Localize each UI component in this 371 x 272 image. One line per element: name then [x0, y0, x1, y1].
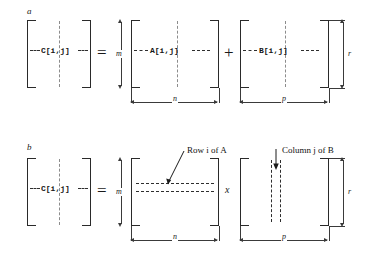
dimension-p-a-arrow-right	[324, 100, 328, 104]
row-i-of-a-lower-edge	[136, 191, 214, 192]
column-j-of-b-annotation: Column j of B	[282, 146, 334, 155]
equals-sign-b: =	[97, 182, 107, 199]
matrix-b-label: B[i,j]	[259, 47, 288, 55]
dimension-r-a-label: r	[347, 50, 352, 58]
dimension-p-b-arrow-left	[239, 238, 243, 242]
matrix-b-bracket-left	[240, 20, 249, 88]
dimension-n-b-ext-right	[219, 226, 220, 241]
dimension-m-b-arrow-bottom	[118, 223, 122, 227]
dimension-r-b-arrow-top	[340, 157, 344, 161]
matrix-b-row-guide-right	[301, 50, 319, 51]
dimension-n-a-label: n	[172, 95, 178, 103]
matrix-a-bracket-left	[131, 20, 140, 88]
matrix-c-b-bracket-left	[27, 158, 36, 226]
matrix-c-a-row-guide-left	[30, 50, 40, 51]
matrix-a-row-guide-right	[192, 50, 210, 51]
figure-canvas: a C[i,j] = m A[i,j] + B[i,j]	[0, 0, 371, 272]
dimension-r-a-arrow-bottom	[340, 85, 344, 89]
matrix-a-bracket-right	[210, 20, 219, 88]
matrix-a-b-bracket-left	[131, 158, 140, 226]
matrix-c-b-row-guide-right	[78, 188, 88, 189]
equals-sign-a: =	[97, 44, 107, 61]
plus-sign-a: +	[224, 44, 234, 61]
matrix-c-a-bracket-right	[82, 20, 91, 88]
dimension-p-b-ext-right	[329, 226, 330, 241]
matrix-c-b-row-guide-left	[30, 188, 40, 189]
panel-b-letter: b	[27, 143, 32, 152]
panel-b: b C[i,j] = m Row i of A x	[0, 136, 371, 272]
matrix-a-row-guide-left	[134, 50, 148, 51]
dimension-n-b-arrow-left	[130, 238, 134, 242]
dimension-p-a-arrow-left	[239, 100, 243, 104]
dimension-n-b-label: n	[172, 233, 178, 241]
multiplication-sign-b: x	[225, 185, 229, 195]
dimension-n-a-arrow-right	[214, 100, 218, 104]
row-i-of-a-leader-line	[160, 150, 200, 186]
dimension-p-b-label: p	[281, 233, 287, 241]
dimension-m-a-arrow-top	[118, 19, 122, 23]
row-i-of-a-annotation: Row i of A	[187, 146, 227, 155]
dimension-p-a-label: p	[281, 95, 287, 103]
dimension-m-b-label: m	[115, 188, 123, 196]
matrix-b-bracket-right	[320, 20, 329, 88]
dimension-m-b-arrow-top	[118, 157, 122, 161]
panel-a-letter: a	[27, 7, 32, 16]
dimension-n-a-ext-right	[219, 88, 220, 103]
matrix-c-a-row-guide-right	[78, 50, 88, 51]
matrix-c-a-label: C[i,j]	[41, 47, 70, 55]
matrix-b-b-bracket-left	[240, 158, 249, 226]
dimension-r-b-arrow-bottom	[340, 223, 344, 227]
dimension-m-a-arrow-bottom	[118, 85, 122, 89]
panel-a: a C[i,j] = m A[i,j] + B[i,j]	[0, 0, 371, 128]
dimension-r-b-label: r	[347, 188, 352, 196]
dimension-r-a-line	[343, 22, 344, 86]
matrix-c-b-label: C[i,j]	[41, 185, 70, 193]
matrix-b-row-guide-left	[243, 50, 257, 51]
dimension-r-a-arrow-top	[340, 19, 344, 23]
dimension-r-b-line	[343, 160, 344, 224]
matrix-c-a-bracket-left	[27, 20, 36, 88]
dimension-m-a-label: m	[115, 50, 123, 58]
dimension-n-a-arrow-left	[130, 100, 134, 104]
dimension-n-b-arrow-right	[214, 238, 218, 242]
dimension-p-b-arrow-right	[324, 238, 328, 242]
matrix-b-b-bracket-right	[320, 158, 329, 226]
dimension-p-a-ext-right	[329, 88, 330, 103]
matrix-a-label: A[i,j]	[150, 47, 179, 55]
matrix-a-b-bracket-right	[210, 158, 219, 226]
matrix-c-b-bracket-right	[82, 158, 91, 226]
